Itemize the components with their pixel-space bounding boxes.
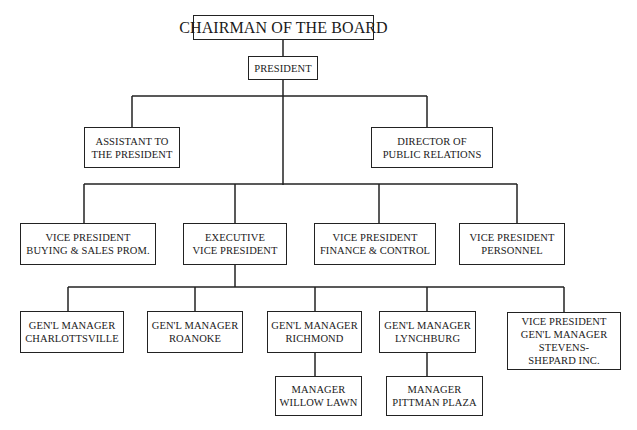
node-label: THE PRESIDENT	[92, 148, 173, 161]
node-label: GEN'L MANAGER	[271, 319, 358, 332]
node-label: PUBLIC RELATIONS	[383, 148, 482, 161]
node-vp-gm-stevens-shepard: VICE PRESIDENT GEN'L MANAGER STEVENS- SH…	[507, 312, 621, 370]
node-vp-finance-control: VICE PRESIDENT FINANCE & CONTROL	[314, 223, 436, 265]
node-label: PRESIDENT	[254, 62, 312, 75]
node-label: STEVENS-	[539, 341, 589, 354]
node-label: CHAIRMAN OF THE BOARD	[179, 19, 388, 37]
node-label: VICE PRESIDENT	[469, 231, 554, 244]
node-label: BUYING & SALES PROM.	[26, 244, 149, 257]
node-mgr-pittman-plaza: MANAGER PITTMAN PLAZA	[386, 376, 483, 416]
node-label: SHEPARD INC.	[528, 354, 599, 367]
node-chairman: CHAIRMAN OF THE BOARD	[193, 15, 374, 40]
node-president: PRESIDENT	[248, 56, 318, 80]
node-gm-lynchburg: GEN'L MANAGER LYNCHBURG	[379, 311, 476, 353]
node-label: GEN'L MANAGER	[152, 319, 239, 332]
node-gm-charlottesville: GEN'L MANAGER CHARLOTTSVILLE	[20, 311, 124, 353]
node-label: RICHMOND	[286, 332, 344, 345]
org-chart: CHAIRMAN OF THE BOARD PRESIDENT ASSISTAN…	[0, 0, 637, 430]
node-label: FINANCE & CONTROL	[320, 244, 430, 257]
node-label: PERSONNEL	[481, 244, 543, 257]
node-label: ASSISTANT TO	[95, 135, 168, 148]
node-label: VICE PRESIDENT	[192, 244, 277, 257]
node-label: ROANOKE	[169, 332, 221, 345]
node-director-public-relations: DIRECTOR OF PUBLIC RELATIONS	[371, 127, 493, 168]
node-label: GEN'L MANAGER	[29, 319, 116, 332]
node-label: CHARLOTTSVILLE	[25, 332, 119, 345]
node-gm-richmond: GEN'L MANAGER RICHMOND	[267, 311, 362, 353]
node-assistant-to-president: ASSISTANT TO THE PRESIDENT	[84, 127, 180, 168]
node-label: MANAGER	[408, 383, 462, 396]
node-label: GEN'L MANAGER	[384, 319, 471, 332]
node-label: WILLOW LAWN	[280, 396, 358, 409]
node-label: VICE PRESIDENT	[521, 315, 606, 328]
node-label: VICE PRESIDENT	[332, 231, 417, 244]
node-gm-roanoke: GEN'L MANAGER ROANOKE	[147, 311, 243, 353]
node-vp-buying-sales: VICE PRESIDENT BUYING & SALES PROM.	[20, 223, 156, 265]
node-label: LYNCHBURG	[395, 332, 460, 345]
node-executive-vp: EXECUTIVE VICE PRESIDENT	[183, 223, 287, 265]
node-label: GEN'L MANAGER	[521, 328, 608, 341]
node-label: DIRECTOR OF	[397, 135, 466, 148]
node-label: VICE PRESIDENT	[45, 231, 130, 244]
node-vp-personnel: VICE PRESIDENT PERSONNEL	[459, 223, 565, 265]
node-mgr-willow-lawn: MANAGER WILLOW LAWN	[275, 376, 362, 416]
node-label: MANAGER	[292, 383, 346, 396]
node-label: PITTMAN PLAZA	[392, 396, 476, 409]
node-label: EXECUTIVE	[205, 231, 265, 244]
